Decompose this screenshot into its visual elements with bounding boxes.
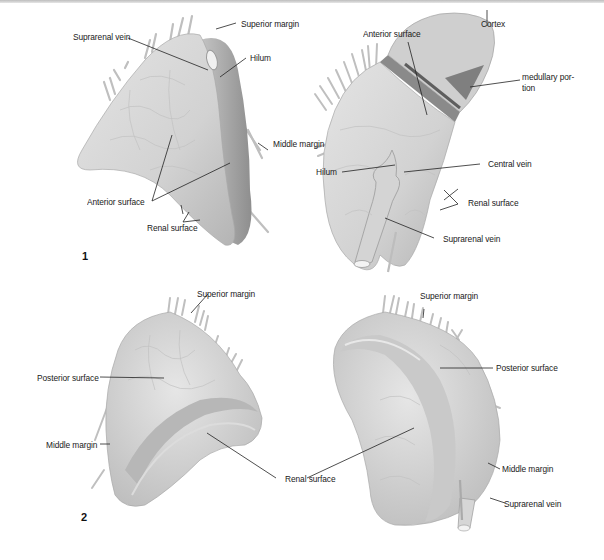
panel-number-2: 2 bbox=[81, 511, 87, 523]
label-1b-hilum: Hilum bbox=[316, 166, 337, 177]
label-1a-anterior-surface: Anterior surface bbox=[87, 196, 145, 207]
label-1b-medullary-portion-line1: medullary por- bbox=[522, 71, 574, 82]
gland-view-1a bbox=[78, 16, 269, 245]
label-1a-middle-margin: Middle margin bbox=[273, 138, 324, 149]
label-1a-superior-margin: Superior margin bbox=[241, 18, 299, 29]
label-1b-medullary-portion-line2: tion bbox=[522, 82, 535, 93]
label-2b-superior-margin: Superior margin bbox=[420, 290, 478, 301]
label-1b-suprarenal-vein: Suprarenal vein bbox=[443, 233, 500, 244]
label-2a-posterior-surface: Posterior surface bbox=[37, 372, 99, 383]
gland-view-2a bbox=[92, 298, 262, 506]
label-1a-renal-surface: Renal surface bbox=[147, 222, 197, 233]
label-2a-superior-margin: Superior margin bbox=[197, 288, 255, 299]
label-1b-cortex: Cortex bbox=[481, 18, 505, 29]
panel-number-1: 1 bbox=[82, 250, 88, 262]
label-1a-hilum: Hilum bbox=[250, 52, 271, 63]
label-1b-central-vein: Central vein bbox=[488, 158, 532, 169]
label-2b-posterior-surface: Posterior surface bbox=[496, 362, 558, 373]
label-2-renal-surface: Renal surface bbox=[285, 473, 335, 484]
label-2b-middle-margin: Middle margin bbox=[502, 463, 553, 474]
label-1b-renal-surface: Renal surface bbox=[468, 197, 518, 208]
label-2b-suprarenal-vein: Suprarenal vein bbox=[504, 498, 561, 509]
gland-view-2b bbox=[333, 296, 500, 531]
label-1b-anterior-surface: Anterior surface bbox=[363, 28, 421, 39]
label-2a-middle-margin: Middle margin bbox=[46, 439, 97, 450]
label-1a-suprarenal-vein: Suprarenal vein bbox=[73, 31, 130, 42]
